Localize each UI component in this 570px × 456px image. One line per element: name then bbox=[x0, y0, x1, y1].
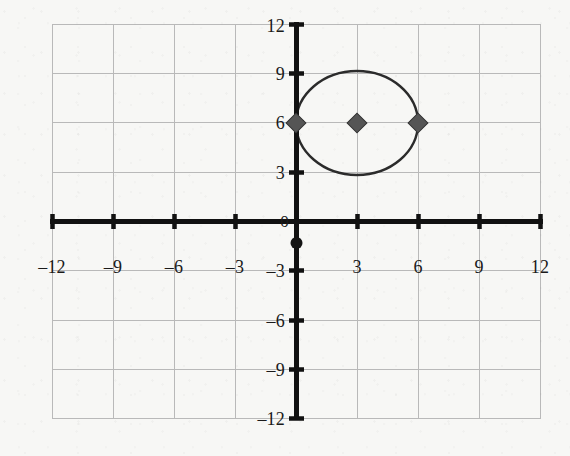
point-marker-diamond bbox=[347, 113, 367, 133]
point-marker-diamond bbox=[408, 113, 428, 133]
origin-tick-label: 0 bbox=[280, 213, 289, 230]
y-tick-label-9: 9 bbox=[276, 65, 285, 83]
y-tick-label--12: –12 bbox=[257, 410, 285, 428]
x-tick-label-12: 12 bbox=[531, 258, 549, 276]
x-tick-label--6: –6 bbox=[165, 258, 183, 276]
axes-layer bbox=[50, 22, 543, 420]
y-tick-label-6: 6 bbox=[276, 114, 285, 132]
y-tick-label-3: 3 bbox=[276, 164, 285, 182]
x-tick-label--3: –3 bbox=[226, 258, 244, 276]
x-tick-label-3: 3 bbox=[352, 258, 361, 276]
y-tick-label--3: –3 bbox=[267, 262, 285, 280]
y-tick-label--9: –9 bbox=[267, 361, 285, 379]
coordinate-plane-figure: –12 –9 –6 –3 3 6 9 12 12 9 6 3 –3 –6 –9 … bbox=[0, 0, 570, 456]
y-tick-label--6: –6 bbox=[267, 312, 285, 330]
origin-point-marker bbox=[291, 237, 303, 249]
x-tick-label--12: –12 bbox=[38, 258, 66, 276]
x-tick-label--9: –9 bbox=[104, 258, 122, 276]
x-tick-label-9: 9 bbox=[474, 258, 483, 276]
x-tick-label-6: 6 bbox=[413, 258, 422, 276]
y-tick-label-12: 12 bbox=[267, 17, 285, 35]
point-marker-diamond bbox=[286, 113, 306, 133]
